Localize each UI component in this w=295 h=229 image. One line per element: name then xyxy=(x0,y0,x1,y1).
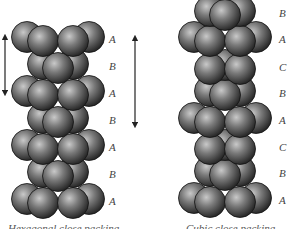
sphere xyxy=(43,107,74,138)
sphere xyxy=(58,26,89,57)
layer-label: B xyxy=(279,7,286,19)
sphere xyxy=(225,134,256,165)
sphere xyxy=(58,80,89,111)
layer-label: B xyxy=(279,87,286,99)
sphere xyxy=(58,188,89,219)
sphere xyxy=(28,134,59,165)
layer-label: C xyxy=(279,141,286,153)
sphere xyxy=(195,134,226,165)
sphere xyxy=(225,54,256,85)
hcp-stack xyxy=(12,22,105,219)
ccp-caption: Cubic close packing xyxy=(186,222,275,229)
layer-label: B xyxy=(109,168,116,180)
ccp-stack xyxy=(179,0,272,218)
sphere xyxy=(195,54,226,85)
sphere xyxy=(210,0,241,31)
sphere xyxy=(28,188,59,219)
hcp-caption: Hexagonal close packing xyxy=(8,222,119,229)
sphere xyxy=(225,187,256,218)
sphere xyxy=(195,107,226,138)
layer-label: A xyxy=(109,141,116,153)
sphere xyxy=(195,187,226,218)
sphere xyxy=(28,80,59,111)
layer-label: A xyxy=(279,33,286,45)
layer-label: A xyxy=(109,33,116,45)
sphere xyxy=(28,26,59,57)
layer-label: B xyxy=(109,60,116,72)
layer-label: B xyxy=(279,167,286,179)
sphere xyxy=(43,53,74,84)
sphere xyxy=(225,107,256,138)
layer-label: A xyxy=(109,195,116,207)
sphere xyxy=(43,161,74,192)
packing-diagram: ABABABA BACBACBA Hexagonal close packing… xyxy=(0,0,295,229)
layer-label: A xyxy=(109,87,116,99)
sphere-stacks xyxy=(0,0,295,229)
layer-label: A xyxy=(279,194,286,206)
layer-label: C xyxy=(279,61,286,73)
layer-label: B xyxy=(109,114,116,126)
sphere xyxy=(58,134,89,165)
layer-label: A xyxy=(279,114,286,126)
